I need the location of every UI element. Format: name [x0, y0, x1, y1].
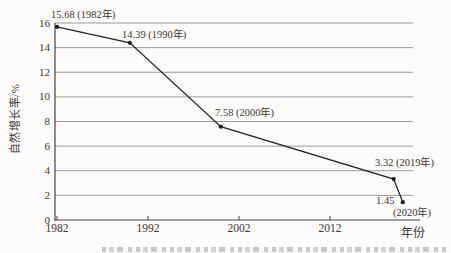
line-chart-figure: 自然增长率/% 年份 02468101214161982199220022012…: [0, 0, 451, 253]
data-point-marker: [392, 177, 396, 181]
x-tick-label: 1982: [37, 222, 77, 235]
data-point-marker: [128, 41, 132, 45]
data-point-label: 1.45: [376, 194, 394, 207]
y-tick-label: 16: [26, 17, 50, 30]
data-point-label: 3.32 (2019年): [375, 156, 434, 169]
data-point-label: 15.68 (1982年): [51, 8, 115, 21]
y-axis-title: 自然增长率/%: [8, 79, 22, 159]
data-point-sublabel: (2020年): [393, 206, 431, 219]
x-tick-label: 1992: [128, 222, 168, 235]
chart-canvas: [0, 0, 451, 253]
y-tick-label: 10: [26, 90, 50, 103]
data-point-label: 7.58 (2000年): [215, 106, 274, 119]
y-tick-label: 12: [26, 66, 50, 79]
x-axis-title: 年份: [401, 226, 447, 240]
x-tick-label: 2002: [219, 222, 259, 235]
y-tick-label: 14: [26, 41, 50, 54]
clipped-caption-fragment: [102, 247, 449, 252]
y-tick-label: 8: [26, 115, 50, 128]
data-point-marker: [55, 25, 59, 29]
x-tick-label: 2012: [310, 222, 350, 235]
y-tick-label: 4: [26, 164, 50, 177]
y-tick-label: 2: [26, 189, 50, 202]
data-point-marker: [401, 200, 405, 204]
y-tick-label: 6: [26, 140, 50, 153]
data-point-label: 14.39 (1990年): [122, 28, 186, 41]
data-point-marker: [219, 125, 223, 129]
